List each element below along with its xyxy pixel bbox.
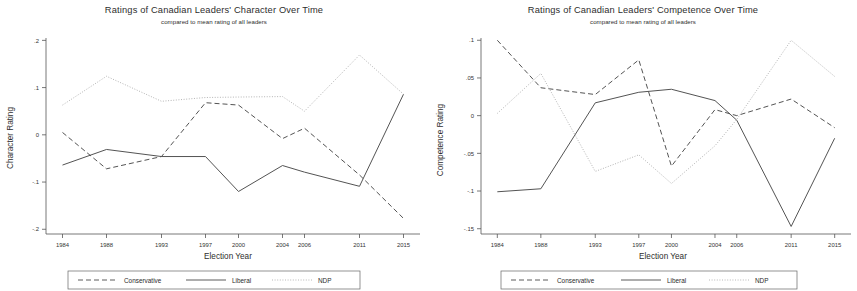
legend-label-conservative: Conservative [124, 277, 162, 284]
y-axis-competence: .1.050-.05-.1-.15 [463, 37, 480, 234]
data-series-group-competence [497, 40, 834, 226]
y-tick-labels-competence: .1.050-.05-.1-.15 [463, 37, 480, 231]
legend-label-liberal: Liberal [232, 277, 251, 284]
y-tick-label: .1 [34, 85, 39, 91]
chart-subtitle-competence: compared to mean rating of all leaders [590, 18, 696, 25]
y-tick-label: -.2 [32, 226, 39, 232]
x-tick-label: 2000 [664, 242, 678, 248]
x-tick-label: 1984 [56, 242, 70, 248]
series-line-ndp [497, 40, 834, 183]
y-tick-label: -.1 [467, 188, 474, 194]
x-tick-label: 2004 [276, 242, 290, 248]
x-tick-label: 1997 [199, 242, 212, 248]
y-axis-character: .2.10-.1-.2 [32, 38, 46, 234]
y-tick-label: 0 [470, 113, 474, 119]
y-tick-label: .1 [469, 37, 474, 43]
legend-label-ndp: NDP [318, 277, 332, 284]
chart-title-character: Ratings of Canadian Leaders' Character O… [105, 5, 323, 15]
x-axis-character: 198419881993199720002004200620112015 [46, 234, 420, 248]
series-line-conservative [497, 40, 834, 166]
x-tick-label: 2015 [828, 242, 842, 248]
x-tick-label: 2011 [784, 242, 797, 248]
x-tick-labels-character: 198419881993199720002004200620112015 [56, 234, 411, 248]
y-tick-label: -.05 [463, 151, 474, 157]
series-line-liberal [63, 94, 404, 191]
x-tick-label: 1993 [155, 242, 169, 248]
chart-subtitle-character: compared to mean rating of all leaders [161, 18, 267, 25]
x-tick-label: 2000 [232, 242, 246, 248]
legend-character: Conservative Liberal NDP [68, 271, 360, 289]
chart-panel-character: Ratings of Canadian Leaders' Character O… [0, 0, 429, 291]
x-tick-label: 2011 [353, 242, 366, 248]
legend-label-conservative: Conservative [557, 277, 595, 284]
legend-competence: Conservative Liberal NDP [501, 271, 797, 289]
x-axis-title-character: Election Year [204, 252, 252, 261]
legend-label-ndp: NDP [755, 277, 769, 284]
legend-label-liberal: Liberal [667, 277, 686, 284]
x-axis-title-competence: Election Year [639, 252, 687, 261]
data-series-group-character [63, 55, 404, 218]
series-line-liberal [497, 89, 834, 226]
y-tick-labels-character: .2.10-.1-.2 [32, 38, 46, 233]
x-tick-label: 2006 [298, 242, 312, 248]
x-tick-label: 2004 [708, 242, 722, 248]
y-tick-label: .05 [465, 75, 474, 81]
chart-panel-competence: Ratings of Canadian Leaders' Competence … [429, 0, 857, 291]
x-tick-label: 2015 [397, 242, 411, 248]
y-axis-title-competence: Competence Rating [436, 103, 445, 176]
x-tick-label: 1997 [632, 242, 645, 248]
figure-container: Ratings of Canadian Leaders' Character O… [0, 0, 857, 291]
series-line-ndp [63, 55, 404, 111]
x-tick-label: 1988 [534, 242, 548, 248]
x-tick-label: 2006 [730, 242, 744, 248]
y-tick-label: 0 [36, 132, 40, 138]
y-tick-label: -.15 [463, 226, 474, 232]
character-chart-svg: Ratings of Canadian Leaders' Character O… [0, 0, 428, 291]
x-tick-labels-competence: 198419881993199720002004200620112015 [490, 234, 841, 248]
x-tick-label: 1988 [100, 242, 114, 248]
y-tick-label: -.1 [32, 179, 39, 185]
x-axis-competence: 198419881993199720002004200620112015 [481, 234, 851, 248]
series-line-conservative [63, 103, 404, 219]
competence-chart-svg: Ratings of Canadian Leaders' Competence … [429, 0, 857, 291]
chart-title-competence: Ratings of Canadian Leaders' Competence … [527, 5, 757, 15]
y-tick-label: .2 [34, 38, 39, 44]
y-axis-title-character: Character Rating [6, 107, 15, 169]
x-tick-label: 1984 [490, 242, 504, 248]
x-tick-label: 1993 [588, 242, 602, 248]
